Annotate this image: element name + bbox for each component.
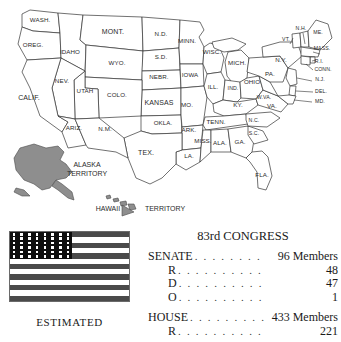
leader-dots: . . . . . . . . . . . . . . . . . . . . bbox=[176, 325, 264, 339]
star-icon bbox=[67, 251, 70, 254]
star-icon bbox=[44, 237, 47, 240]
state-label-wisc: WISC. bbox=[203, 48, 222, 55]
star-icon bbox=[51, 246, 54, 249]
senate-o-label: O bbox=[148, 291, 177, 305]
star-icon bbox=[36, 246, 39, 249]
state-label-okla: OKLA. bbox=[154, 119, 173, 126]
state-label-miss: MISS. bbox=[194, 137, 212, 144]
senate-r-row: R . . . . . . . . . . . . . . . . . . . … bbox=[148, 264, 338, 278]
star-icon bbox=[20, 237, 23, 240]
state-label-ohio: OHIO bbox=[244, 78, 260, 85]
state-label-wyo: WYO. bbox=[109, 59, 126, 66]
star-icon bbox=[20, 242, 23, 245]
star-icon bbox=[28, 251, 31, 254]
house-r-label: R bbox=[148, 325, 176, 339]
senate-d-value: 47 bbox=[264, 277, 338, 291]
state-label-calif: CALIF. bbox=[18, 94, 40, 101]
star-icon bbox=[67, 233, 70, 236]
star-icon bbox=[44, 255, 47, 258]
star-icon bbox=[51, 251, 54, 254]
star-icon bbox=[28, 255, 31, 258]
state-label-nebr: NEBR. bbox=[149, 73, 169, 80]
state-label-nh: N.H. bbox=[296, 25, 307, 31]
star-icon bbox=[28, 237, 31, 240]
star-icon bbox=[36, 237, 39, 240]
state-label-kansas: KANSAS bbox=[145, 99, 174, 106]
star-icon bbox=[13, 251, 16, 254]
state-label-tex: TEX. bbox=[138, 149, 154, 156]
state-label-md: MD. bbox=[315, 98, 325, 104]
state-label-ala: ALA. bbox=[213, 139, 227, 146]
star-icon bbox=[28, 233, 31, 236]
state-label-minn: MINN. bbox=[178, 37, 196, 44]
state-label-mass: MASS. bbox=[314, 45, 331, 51]
flag-canton-stars bbox=[10, 232, 72, 259]
senate-group: SENATE . . . . . . . . . . . . . . . . .… bbox=[148, 250, 338, 304]
state-label-fla: FLA. bbox=[255, 171, 269, 178]
senate-total-value: 96 Members bbox=[264, 250, 338, 264]
star-icon bbox=[20, 246, 23, 249]
star-icon bbox=[59, 242, 62, 245]
state-label-ri: R.I. bbox=[315, 58, 323, 64]
star-icon bbox=[20, 255, 23, 258]
house-total-value: 433 Members bbox=[264, 311, 338, 325]
house-group: HOUSE . . . . . . . . . . . . . . . . . … bbox=[148, 311, 338, 338]
star-icon bbox=[20, 251, 23, 254]
leader-dots: . . . . . . . . . . . . . . . . . . . . bbox=[177, 291, 264, 305]
star-icon bbox=[36, 242, 39, 245]
senate-o-value: 1 bbox=[264, 291, 338, 305]
star-icon bbox=[13, 233, 16, 236]
congress-title: 83rd CONGRESS bbox=[148, 229, 338, 244]
star-icon bbox=[51, 255, 54, 258]
star-icon bbox=[44, 246, 47, 249]
star-icon bbox=[59, 246, 62, 249]
senate-d-label: D bbox=[148, 277, 177, 291]
state-label-va: VA. bbox=[267, 102, 277, 109]
star-icon bbox=[59, 255, 62, 258]
us-flag bbox=[9, 231, 130, 302]
estimated-caption: ESTIMATED bbox=[9, 316, 130, 328]
house-label: HOUSE bbox=[148, 311, 188, 325]
star-icon bbox=[67, 255, 70, 258]
state-label-nj: N.J. bbox=[315, 76, 325, 82]
star-icon bbox=[44, 233, 47, 236]
senate-total-row: SENATE . . . . . . . . . . . . . . . . .… bbox=[148, 250, 338, 264]
state-label-ill: ILL. bbox=[208, 83, 219, 90]
state-label-conn: CONN. bbox=[314, 66, 331, 72]
us-map: WASH.OREG.IDAHOMONT.N.D.MINN.S.D.WYO.NEB… bbox=[0, 0, 341, 222]
state-label-ark: ARK. bbox=[182, 126, 197, 133]
star-icon bbox=[44, 251, 47, 254]
star-icon bbox=[13, 242, 16, 245]
house-r-row: R . . . . . . . . . . . . . . . . . . . … bbox=[148, 325, 338, 339]
star-icon bbox=[51, 242, 54, 245]
territory-label-hawaii-territory: TERRITORY bbox=[145, 205, 186, 212]
state-label-sc: S.C. bbox=[249, 130, 260, 136]
state-label-iowa: IOWA bbox=[182, 71, 199, 78]
state-label-mont: MONT. bbox=[102, 28, 124, 35]
state-label-wva: W.VA. bbox=[257, 94, 272, 100]
star-icon bbox=[13, 255, 16, 258]
star-icon bbox=[51, 237, 54, 240]
star-icon bbox=[13, 237, 16, 240]
leader-dots: . . . . . . . . . . . . . . . . . . . . bbox=[176, 264, 264, 278]
state-label-ny: N.Y. bbox=[275, 56, 287, 63]
star-icon bbox=[36, 233, 39, 236]
star-icon bbox=[67, 237, 70, 240]
star-icon bbox=[36, 251, 39, 254]
state-label-mo: MO. bbox=[181, 101, 193, 108]
star-icon bbox=[44, 242, 47, 245]
state-label-utah: UTAH bbox=[77, 87, 94, 94]
state-label-vt: VT. bbox=[282, 36, 290, 42]
star-icon bbox=[59, 233, 62, 236]
state-label-del: DEL. bbox=[315, 88, 327, 94]
leader-dots: . . . . . . . . . . . . . . . . . . . . bbox=[193, 250, 264, 264]
state-label-oreg: OREG. bbox=[23, 41, 44, 48]
state-label-nd: N.D. bbox=[155, 30, 168, 37]
state-label-ind: IND. bbox=[228, 85, 239, 91]
star-icon bbox=[59, 251, 62, 254]
star-icon bbox=[20, 233, 23, 236]
state-label-ariz: ARIZ. bbox=[66, 124, 82, 131]
state-label-sd: S.D. bbox=[155, 53, 168, 60]
state-label-tenn: TENN. bbox=[206, 118, 225, 125]
star-icon bbox=[67, 242, 70, 245]
